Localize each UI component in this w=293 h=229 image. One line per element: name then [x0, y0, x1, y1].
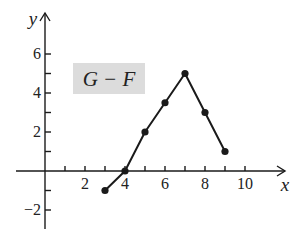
x-tick-label: 8 — [201, 175, 209, 192]
data-point-marker — [121, 167, 128, 174]
y-tick-label: 6 — [33, 45, 41, 62]
data-point-marker — [101, 187, 108, 194]
axes: 246810−2246xy — [16, 8, 290, 229]
data-point-marker — [161, 99, 168, 106]
y-tick-label: −2 — [24, 201, 41, 218]
annotation-label: G − F — [73, 63, 145, 94]
data-point-marker — [201, 109, 208, 116]
x-tick-label: 10 — [237, 175, 253, 192]
x-axis-label: x — [280, 174, 290, 195]
y-tick-label: 4 — [33, 84, 41, 101]
y-tick-label: 2 — [33, 123, 41, 140]
annotation-text: G − F — [83, 67, 136, 91]
x-tick-label: 6 — [161, 175, 169, 192]
x-tick-label: 4 — [121, 175, 129, 192]
data-point-marker — [141, 128, 148, 135]
data-point-marker — [221, 148, 228, 155]
y-axis-label: y — [27, 8, 38, 29]
x-tick-label: 2 — [81, 175, 89, 192]
data-point-marker — [181, 70, 188, 77]
line-chart: 246810−2246xy G − F — [0, 0, 293, 229]
